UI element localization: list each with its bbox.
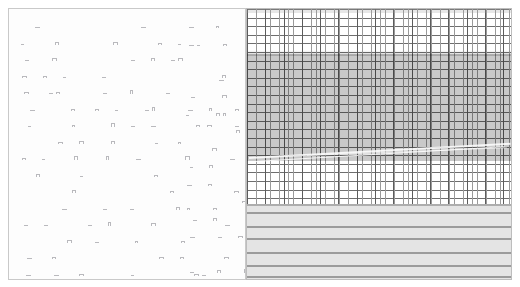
glyph-box	[106, 156, 109, 160]
glyph-box	[113, 42, 118, 45]
glyph-box	[27, 258, 32, 259]
glyph-box	[212, 148, 217, 151]
text-line	[185, 159, 246, 168]
glyph-box	[88, 225, 92, 226]
glyph-box	[79, 274, 84, 276]
glyph-box	[22, 158, 26, 160]
glyph-box	[208, 184, 212, 186]
text-page	[8, 8, 246, 280]
glyph-box	[218, 237, 222, 238]
glyph-box	[111, 123, 115, 127]
glyph-box	[189, 27, 193, 28]
glyph-box	[52, 257, 56, 259]
glyph-box	[209, 165, 213, 168]
glyph-box	[43, 76, 47, 78]
glyph-box	[36, 174, 40, 177]
glyph-box	[180, 257, 184, 259]
glyph-box	[103, 93, 107, 94]
glyph-box	[159, 257, 164, 259]
glyph-box	[28, 126, 31, 127]
glyph-box	[21, 44, 24, 45]
glyph-box	[25, 60, 29, 61]
glyph-box	[178, 58, 183, 61]
top-edge-wash	[247, 9, 511, 13]
glyph-box	[145, 110, 149, 111]
text-line	[185, 124, 246, 133]
glyph-box	[151, 223, 156, 226]
text-line	[185, 54, 246, 63]
glyph-box	[22, 76, 27, 78]
text-line	[185, 37, 246, 46]
glyph-box	[193, 220, 197, 221]
glyph-box	[67, 240, 72, 243]
glyph-box	[166, 93, 170, 94]
glyph-box	[74, 156, 78, 160]
glyph-box	[222, 95, 227, 98]
glyph-box	[130, 209, 134, 210]
glyph-box	[176, 207, 180, 210]
glyph-box	[135, 241, 138, 243]
glyph-box	[152, 107, 155, 111]
glyph-box	[223, 44, 227, 46]
glyph-box	[131, 275, 134, 276]
glyph-box	[58, 142, 63, 144]
glyph-box	[24, 225, 28, 226]
text-line	[185, 19, 246, 28]
glyph-box	[178, 44, 181, 45]
glyph-box	[95, 242, 99, 243]
text-line	[185, 247, 209, 256]
glyph-box	[190, 237, 195, 238]
glyph-box	[170, 191, 174, 193]
glyph-box	[158, 43, 162, 45]
band-rule	[247, 252, 511, 254]
glyph-box	[238, 236, 243, 238]
glyph-box	[102, 77, 106, 78]
glyph-box	[54, 275, 59, 276]
glyph-box	[52, 58, 57, 61]
glyph-box	[191, 97, 195, 98]
glyph-box	[217, 270, 221, 273]
glyph-box	[42, 159, 45, 160]
glyph-box	[223, 113, 226, 116]
glyph-box	[151, 126, 156, 127]
glyph-box	[111, 141, 115, 144]
glyph-box	[131, 126, 135, 127]
glyph-box	[62, 209, 67, 210]
glyph-box	[26, 275, 31, 276]
glyph-box	[72, 125, 75, 127]
glyph-box	[216, 113, 220, 116]
glyph-box	[216, 26, 219, 28]
glyph-box	[71, 109, 75, 111]
glyph-box	[151, 58, 155, 61]
band-zone-top-edge	[247, 204, 511, 206]
grid-zone	[247, 9, 511, 204]
glyph-box	[178, 142, 181, 144]
glyph-box	[186, 115, 189, 116]
band-rule	[247, 212, 511, 214]
glyph-box	[189, 45, 194, 46]
glyph-box	[187, 185, 192, 186]
glyph-box	[136, 159, 141, 160]
glyph-box	[115, 110, 118, 111]
glyph-box	[56, 92, 60, 94]
text-line	[21, 19, 197, 28]
glyph-box	[190, 272, 194, 273]
text-line	[185, 89, 246, 98]
glyph-box	[154, 175, 158, 177]
text-line	[185, 212, 246, 221]
text-column-right	[185, 9, 243, 279]
ledger-sheet	[246, 8, 512, 280]
text-line	[185, 107, 246, 116]
glyph-box	[108, 222, 111, 226]
glyph-box	[197, 45, 200, 46]
band-zone	[247, 204, 511, 280]
glyph-box	[55, 42, 59, 45]
text-line	[21, 168, 201, 177]
band-rule	[247, 226, 511, 228]
glyph-box	[79, 141, 84, 144]
band-rule	[247, 265, 511, 267]
glyph-box	[236, 130, 240, 133]
glyph-box	[24, 92, 29, 94]
glyph-box	[171, 60, 175, 61]
glyph-box	[30, 110, 35, 111]
